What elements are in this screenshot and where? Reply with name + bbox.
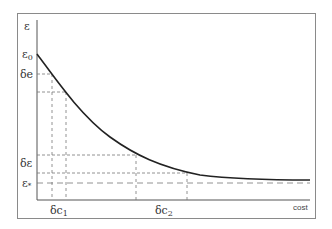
- y-tick-delta-epsilon: δε: [20, 157, 33, 170]
- y-tick-epsilon0: ε0: [22, 48, 33, 62]
- x-tick-delta-c1: δc1: [50, 204, 68, 218]
- x-axis-label: cost: [293, 203, 308, 212]
- y-tick-delta-e: δe: [20, 68, 33, 81]
- figure-border: [18, 14, 316, 219]
- error-curve: [37, 54, 310, 180]
- guide-lines: [37, 74, 310, 200]
- y-tick-epsilon-star: ε*: [22, 177, 32, 190]
- x-tick-delta-c2: δc2: [155, 204, 173, 218]
- y-axis-label: ε: [24, 20, 30, 33]
- cost-error-diagram: ε ε0 δe δε ε* δc1 δc2 cost: [0, 0, 332, 229]
